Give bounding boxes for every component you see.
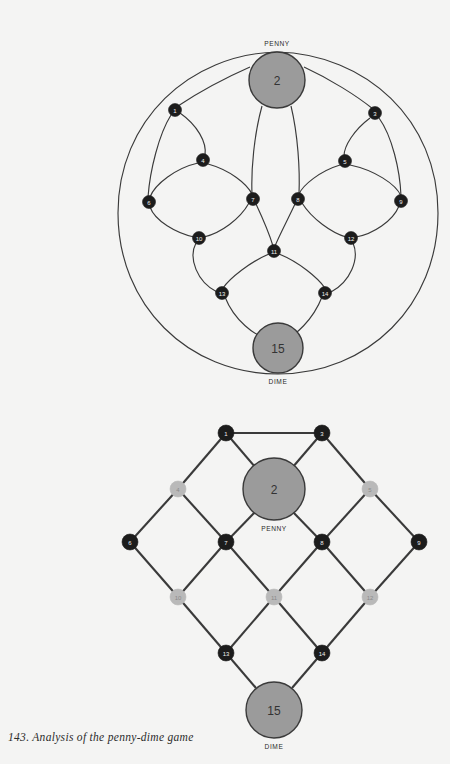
node-3-bottom[interactable]: 3: [314, 425, 330, 441]
node-9-top[interactable]: 9: [395, 195, 408, 208]
node-1-top[interactable]: 1: [169, 104, 182, 117]
edge-11-13-lattice: [226, 597, 274, 653]
top-nodes: 2 PENNY 15 DIME 1 3 4 5: [143, 40, 408, 385]
edge-7-10: [204, 203, 249, 237]
penny-dime-graph-circular: 2 PENNY 15 DIME 1 3 4 5: [0, 0, 450, 400]
node-dime-top[interactable]: 15: [253, 323, 303, 373]
edge-10-13: [193, 243, 217, 292]
node-3-top[interactable]: 3: [369, 107, 382, 120]
edge-4-6-lattice: [130, 489, 178, 542]
edge-2-8: [291, 106, 299, 194]
edge-3-5-lattice: [322, 433, 370, 489]
node-dime-bottom-label: 15: [267, 704, 281, 718]
edge-8-11: [275, 204, 295, 246]
node-13-top[interactable]: 13: [216, 287, 229, 300]
edge-5-9: [350, 165, 401, 196]
edge-1-4: [180, 113, 205, 155]
figure-root: 2 PENNY 15 DIME 1 3 4 5: [0, 0, 450, 764]
penny-caption-top: PENNY: [264, 40, 290, 47]
figure-caption: 143. Analysis of the penny-dime game: [8, 731, 194, 743]
edge-2-1: [178, 67, 250, 106]
edge-12-14: [331, 243, 355, 292]
edge-7-10-lattice: [178, 542, 226, 597]
edge-3-5: [344, 118, 370, 156]
node-6-bottom[interactable]: 6: [122, 534, 138, 550]
node-10-top-label: 10: [196, 236, 203, 242]
node-10-top[interactable]: 10: [193, 232, 206, 245]
node-11-bottom[interactable]: 11: [266, 589, 282, 605]
edge-5-8: [299, 165, 340, 194]
edge-7-11-lattice: [226, 542, 274, 597]
node-5-bottom[interactable]: 5: [362, 481, 378, 497]
edge-4-6: [150, 163, 198, 197]
node-penny-top-label: 2: [274, 74, 281, 88]
node-14-bottom-label: 14: [319, 651, 326, 657]
edge-6-10: [150, 207, 194, 237]
edge-2-7: [252, 106, 262, 194]
penny-dime-graph-lattice: 2 PENNY 15 DIME 1 3 4 5: [0, 400, 450, 760]
node-13-top-label: 13: [219, 291, 226, 297]
node-6-top[interactable]: 6: [143, 196, 156, 209]
edge-3-9: [379, 118, 401, 196]
edge-8-11-lattice: [274, 542, 322, 597]
node-7-top[interactable]: 7: [247, 193, 260, 206]
node-14-bottom[interactable]: 14: [314, 645, 330, 661]
node-12-top[interactable]: 12: [345, 232, 358, 245]
node-penny-top[interactable]: 2: [249, 52, 305, 108]
edge-5-8-lattice: [322, 489, 370, 542]
edge-9-12: [356, 206, 399, 237]
dime-caption-bottom: DIME: [265, 743, 284, 750]
node-8-bottom[interactable]: 8: [314, 534, 330, 550]
penny-caption-bottom: PENNY: [261, 525, 287, 532]
edge-10-13-lattice: [178, 597, 226, 653]
edge-1-6: [148, 115, 171, 197]
edge-4-7: [208, 164, 252, 194]
node-4-bottom[interactable]: 4: [170, 481, 186, 497]
node-penny-bottom[interactable]: 2: [243, 458, 305, 520]
node-9-bottom[interactable]: 9: [411, 534, 427, 550]
node-10-bottom[interactable]: 10: [170, 589, 186, 605]
node-5-top[interactable]: 5: [339, 155, 352, 168]
node-7-bottom[interactable]: 7: [218, 534, 234, 550]
edge-9-12-lattice: [370, 542, 419, 597]
node-13-bottom-label: 13: [223, 651, 230, 657]
node-8-top[interactable]: 8: [292, 193, 305, 206]
edge-5-9-lattice: [370, 489, 419, 542]
node-1-bottom[interactable]: 1: [218, 425, 234, 441]
node-penny-bottom-label: 2: [271, 483, 278, 497]
node-dime-top-label: 15: [271, 342, 285, 356]
node-12-bottom[interactable]: 12: [362, 589, 378, 605]
node-13-bottom[interactable]: 13: [218, 645, 234, 661]
node-11-top[interactable]: 11: [268, 245, 281, 258]
node-14-top-label: 14: [322, 291, 329, 297]
edge-11-14: [279, 254, 325, 288]
edge-12-14-lattice: [322, 597, 370, 653]
edge-2-3: [304, 67, 373, 109]
node-10-bottom-label: 10: [175, 595, 182, 601]
node-12-bottom-label: 12: [367, 595, 374, 601]
bottom-nodes: 2 PENNY 15 DIME 1 3 4 5: [122, 425, 427, 750]
node-11-top-label: 11: [271, 249, 278, 255]
node-dime-bottom[interactable]: 15: [246, 682, 302, 738]
node-14-top[interactable]: 14: [319, 287, 332, 300]
edge-1-4-lattice: [178, 433, 226, 489]
edge-7-11: [256, 204, 273, 246]
edge-11-14-lattice: [274, 597, 322, 653]
edge-6-10-lattice: [130, 542, 178, 597]
node-11-bottom-label: 11: [271, 595, 278, 601]
node-12-top-label: 12: [348, 236, 355, 242]
node-4-top[interactable]: 4: [197, 154, 210, 167]
edge-8-12: [302, 203, 346, 237]
edge-8-12-lattice: [322, 542, 370, 597]
dime-caption-top: DIME: [269, 378, 288, 385]
edge-4-7-lattice: [178, 489, 226, 542]
edge-11-13: [223, 254, 269, 288]
